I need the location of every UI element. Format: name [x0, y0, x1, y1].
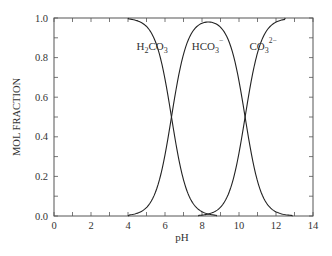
y-tick-label: 0.8 — [35, 52, 48, 63]
x-tick-label: 6 — [162, 220, 167, 231]
y-tick-label: 0.4 — [35, 131, 49, 142]
y-tick-label: 0.6 — [35, 92, 48, 103]
x-tick-label: 10 — [234, 220, 245, 231]
x-tick-label: 2 — [88, 220, 93, 231]
y-tick-label: 1.0 — [35, 13, 48, 24]
x-tick-label: 14 — [308, 220, 319, 231]
x-tick-label: 8 — [199, 220, 204, 231]
plot-axes: 024681012140.00.20.40.60.81.0 — [35, 13, 319, 232]
y-tick-label: 0.0 — [35, 211, 48, 222]
speciation-chart: 024681012140.00.20.40.60.81.0 H2CO3HCO3−… — [0, 0, 332, 256]
species-labels: H2CO3HCO3−CO32− — [136, 36, 276, 55]
y-tick-label: 0.2 — [35, 171, 48, 182]
species-label: HCO3− — [192, 36, 223, 55]
x-tick-label: 12 — [271, 220, 282, 231]
x-axis-label: pH — [175, 231, 189, 243]
y-axis-label: MOL FRACTION — [11, 78, 22, 156]
species-label: H2CO3 — [136, 40, 167, 55]
species-label: CO32− — [249, 36, 276, 55]
x-tick-label: 4 — [125, 220, 131, 231]
plot-frame — [54, 18, 313, 216]
x-tick-label: 0 — [51, 220, 56, 231]
